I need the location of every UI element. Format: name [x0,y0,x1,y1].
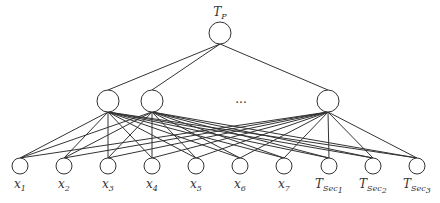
node-input-TSec3 [409,158,425,174]
label-TSec3: TSec3 [403,177,431,195]
ellipsis: ... [235,92,246,106]
node-input-x4 [144,158,160,174]
label-TSec2: TSec2 [359,177,387,195]
node-input-x5 [188,158,204,174]
node-hidden-h2 [141,90,163,112]
edges [20,44,417,158]
edge-h2-x1 [20,112,152,158]
edge-top-h1 [108,44,220,90]
network-diagram: TPx1x2x3x4x5x6x7TSec1TSec2TSec3... [0,0,440,203]
edge-hn-x2 [64,112,328,158]
label-x3: x3 [102,177,114,193]
edge-top-h2 [152,44,220,90]
label-x7: x7 [278,177,291,193]
node-input-TSec1 [321,158,337,174]
node-input-x2 [56,158,72,174]
node-hidden-h1 [97,90,119,112]
edge-hn-TSec1 [328,112,329,158]
node-input-x7 [276,158,292,174]
node-hidden-hn [317,90,339,112]
node-input-TSec2 [365,158,381,174]
label-x6: x6 [234,177,246,193]
node-top-tp [209,22,231,44]
edge-top-hn [220,44,328,90]
label-tp: TP [213,5,227,21]
label-x1: x1 [14,177,26,193]
label-x2: x2 [58,177,70,193]
node-input-x6 [232,158,248,174]
node-input-x3 [100,158,116,174]
label-x4: x4 [146,177,158,193]
label-x5: x5 [190,177,202,193]
node-input-x1 [12,158,28,174]
label-TSec1: TSec1 [315,177,343,195]
